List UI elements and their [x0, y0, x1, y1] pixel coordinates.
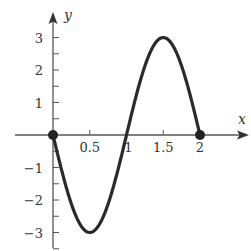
y-tick-label: 3	[35, 31, 43, 46]
x-tick-label: 0.5	[79, 140, 100, 155]
endpoint-dot	[195, 130, 205, 140]
x-tick-label: 1.5	[153, 140, 174, 155]
endpoint-dot	[48, 130, 58, 140]
y-axis-label: y	[63, 7, 73, 23]
y-tick-label: 1	[35, 96, 43, 111]
y-tick-label: −1	[24, 161, 43, 176]
y-tick-label: −2	[24, 193, 43, 208]
y-tick-label: −3	[24, 226, 43, 241]
x-tick-label: 2	[196, 140, 204, 155]
y-tick-label: 2	[35, 63, 43, 78]
function-plot: 0.511.52−3−2−1123 x y	[0, 0, 251, 251]
x-axis-label: x	[238, 111, 246, 127]
axes	[15, 12, 249, 248]
